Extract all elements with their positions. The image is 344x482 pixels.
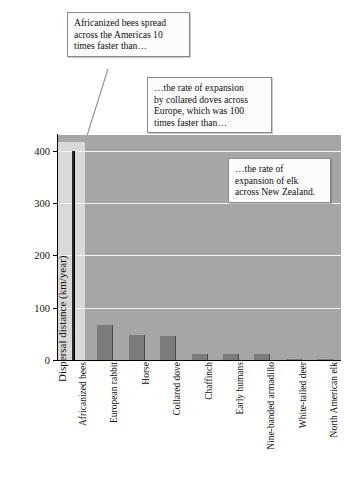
callout-bees: Africanized bees spread across the Ameri… bbox=[67, 12, 190, 57]
x-label-north-american-elk: North American elk bbox=[329, 362, 339, 437]
x-label-european-rabbit: European rabbit bbox=[109, 362, 119, 423]
x-label-white-tailed-deer: White-tailed deer bbox=[298, 362, 308, 428]
y-tick-label-0: 0 bbox=[0, 355, 50, 366]
callout-elk-line-3: across New Zealand. bbox=[235, 186, 325, 198]
y-tick-label-200: 200 bbox=[0, 250, 50, 261]
callout-collared-dove: …the rate of expansion by collared doves… bbox=[147, 77, 272, 133]
y-tick-label-400: 400 bbox=[0, 145, 50, 156]
x-label-horse: Horse bbox=[141, 362, 151, 385]
callout-dove-line-4: times faster than… bbox=[154, 117, 266, 129]
x-label-chaffinch: Chaffinch bbox=[204, 362, 214, 400]
callout-bees-line-1: Africanized bees spread bbox=[74, 17, 184, 29]
callout-bees-line-2: across the Americas 10 bbox=[74, 29, 184, 41]
callout-dove-line-2: by collared doves across bbox=[154, 94, 266, 106]
callout-elk-line-1: …the rate of bbox=[235, 163, 325, 175]
callout-elk-line-2: expansion of elk bbox=[235, 175, 325, 187]
callout-dove-line-1: …the rate of expansion bbox=[154, 82, 266, 94]
callout-dove-line-3: Europe, which was 100 bbox=[154, 105, 266, 117]
x-axis-category-labels: Africanized beesEuropean rabbitHorseColl… bbox=[58, 362, 341, 482]
callout-bees-line-3: times faster than… bbox=[74, 40, 184, 52]
y-tick-label-100: 100 bbox=[0, 302, 50, 313]
callout-elk: …the rate of expansion of elk across New… bbox=[228, 158, 331, 203]
x-label-early-humans: Early humans bbox=[235, 362, 245, 415]
x-label-africanized-bees: Africanized bees bbox=[78, 362, 88, 426]
y-tick-label-300: 300 bbox=[0, 198, 50, 209]
x-label-collared-dove: Collared dove bbox=[172, 362, 182, 416]
x-label-nine-banded-armadillo: Nine-banded armadillo bbox=[266, 362, 276, 450]
chart-figure: Dispersal distance (km/year) 40030020010… bbox=[0, 0, 344, 482]
